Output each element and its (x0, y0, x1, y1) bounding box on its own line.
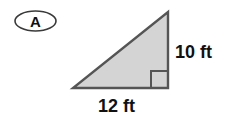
height-dimension-label: 10 ft (175, 43, 212, 61)
triangle-shape (73, 12, 168, 88)
worksheet-figure-panel: A 10 ft 12 ft (0, 0, 239, 130)
base-dimension-label: 12 ft (98, 97, 135, 115)
